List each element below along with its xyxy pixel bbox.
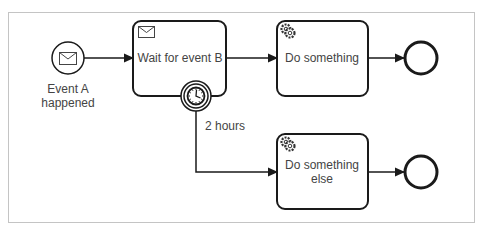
end-event-1[interactable] — [405, 42, 437, 74]
envelope-icon — [139, 27, 155, 38]
start-event-label-line-1: Event A — [47, 82, 88, 96]
bpmn-canvas: Event A happened Wait for event B — [0, 0, 482, 228]
task-label-line-2: else — [311, 172, 333, 186]
task-do-something-else[interactable]: Do something else — [277, 134, 368, 209]
envelope-icon — [60, 53, 77, 65]
end-event-2[interactable] — [405, 156, 437, 188]
start-event-label-line-2: happened — [41, 96, 94, 110]
task-wait-for-event-b[interactable]: Wait for event B — [133, 21, 226, 96]
task-label: Do something — [285, 51, 359, 65]
timer-event-label: 2 hours — [205, 119, 245, 133]
task-label-line-1: Do something — [285, 158, 359, 172]
diagram-frame — [9, 13, 475, 223]
timer-boundary-event[interactable] — [181, 81, 211, 111]
start-event-event-a[interactable] — [52, 42, 84, 74]
task-do-something[interactable]: Do something — [277, 21, 368, 96]
task-label: Wait for event B — [138, 51, 223, 65]
